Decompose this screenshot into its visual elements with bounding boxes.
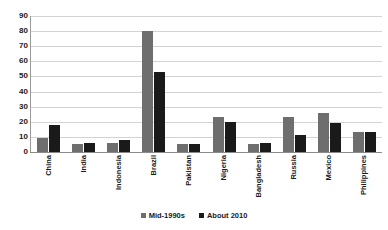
x-axis-tick-label: Pakistan [185,155,193,186]
y-axis-tick-label: 90 [2,12,28,20]
x-axis-tick-label: Brazil [150,155,158,175]
bar [37,138,48,152]
bar [189,144,200,152]
x-axis-tick-label: Indonesia [115,155,123,190]
x-axis-tick-cell: China [31,155,66,205]
x-axis-tick-label: Mexico [326,155,334,180]
bar-group [136,16,171,152]
x-axis-tick-label: Russia [290,155,298,180]
bar-group [347,16,382,152]
x-axis-tick-label: Philippines [361,155,369,195]
bar [49,125,60,152]
bar-group [312,16,347,152]
x-axis-tick-cell: Bangladesh [242,155,277,205]
bar [154,72,165,152]
y-axis-tick-label: 50 [2,72,28,80]
y-axis-tick-label: 20 [2,118,28,126]
bar [142,31,153,152]
bar [72,144,83,152]
chart-legend: Mid-1990sAbout 2010 [0,212,388,220]
x-axis-tick-labels: ChinaIndiaIndonesiaBrazilPakistanNigeria… [31,155,382,205]
legend-item[interactable]: About 2010 [199,212,247,220]
y-axis-tick-label: 0 [2,148,28,156]
bar-group [242,16,277,152]
bar [248,144,259,152]
y-axis-tick-labels: 9080706050403020100 [0,0,28,230]
bar [84,143,95,152]
bar [213,117,224,152]
bar [365,132,376,152]
legend-item[interactable]: Mid-1990s [141,212,185,220]
bar [330,123,341,152]
bar-group [277,16,312,152]
y-axis-tick-label: 30 [2,103,28,111]
x-axis-tick-label: India [80,155,88,173]
y-axis-tick-label: 70 [2,42,28,50]
bar-group [66,16,101,152]
bar-group [171,16,206,152]
legend-swatch-icon [199,213,204,218]
x-axis-tick-cell: Indonesia [101,155,136,205]
x-axis-tick-cell: Pakistan [171,155,206,205]
x-axis-tick-label: China [45,155,53,176]
bar [353,132,364,152]
x-axis-tick-cell: India [66,155,101,205]
x-axis-tick-cell: Brazil [136,155,171,205]
x-axis-tick-cell: Philippines [347,155,382,205]
bar [225,122,236,152]
bar-group [206,16,241,152]
bar-groups [31,16,382,152]
bar [177,144,188,152]
bar [119,140,130,152]
bar-group [101,16,136,152]
x-axis-tick-cell: Nigeria [206,155,241,205]
y-axis-tick-label: 10 [2,133,28,141]
y-axis-tick-label: 80 [2,27,28,35]
x-axis-tick-cell: Mexico [312,155,347,205]
bar [283,117,294,152]
x-axis-tick-label: Nigeria [220,155,228,180]
bar-group [31,16,66,152]
y-axis-tick-label: 40 [2,88,28,96]
legend-label: About 2010 [207,212,247,220]
x-axis-tick-cell: Russia [277,155,312,205]
legend-label: Mid-1990s [149,212,185,220]
bar [295,135,306,152]
bar [260,143,271,152]
x-axis-line [30,152,382,153]
bar [107,143,118,152]
bar-chart: 9080706050403020100 ChinaIndiaIndonesiaB… [0,0,388,230]
bar [318,113,329,152]
x-axis-tick-label: Bangladesh [255,155,263,198]
y-axis-tick-label: 60 [2,57,28,65]
legend-swatch-icon [141,213,146,218]
